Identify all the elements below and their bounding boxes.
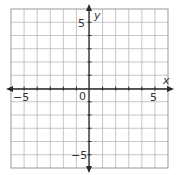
- y-tick-label-neg5: −5: [71, 149, 87, 162]
- x-tick-label-neg5: −5: [13, 91, 29, 104]
- y-axis-down-arrow-icon: [86, 166, 92, 173]
- x-axis-label: x: [162, 74, 170, 87]
- coordinate-plane: x y 0 −5 5 5 −5: [0, 0, 177, 175]
- y-axis-label: y: [93, 9, 101, 22]
- y-axis-up-arrow-icon: [86, 4, 92, 11]
- origin-label: 0: [79, 90, 86, 103]
- x-axis-left-arrow-icon: [6, 86, 13, 92]
- x-tick-label-pos5: 5: [150, 91, 157, 104]
- y-tick-label-pos5: 5: [78, 17, 85, 30]
- axes: [6, 4, 174, 173]
